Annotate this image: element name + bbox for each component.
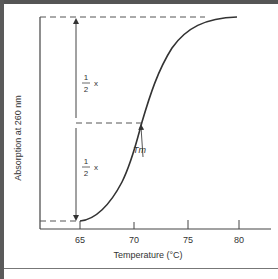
svg-text:x: x <box>94 163 98 172</box>
svg-text:1: 1 <box>84 73 89 82</box>
svg-text:2: 2 <box>84 85 89 94</box>
melting-curve-chart: 65 70 75 80 Temperature (°C) Absorption … <box>0 0 278 279</box>
svg-text:2: 2 <box>84 169 89 178</box>
lower-half-x-label: 1 2 x <box>82 157 98 178</box>
y-axis-title: Absorption at 260 nm <box>13 95 23 181</box>
melting-curve <box>80 17 237 221</box>
tm-label: Tm <box>133 145 146 155</box>
figure-frame: 65 70 75 80 Temperature (°C) Absorption … <box>0 0 278 279</box>
x-tick-label-75: 75 <box>183 235 193 245</box>
x-tick-label-80: 80 <box>234 235 244 245</box>
svg-text:x: x <box>94 79 98 88</box>
x-axis-title: Temperature (°C) <box>113 250 182 260</box>
upper-half-x-label: 1 2 x <box>82 73 98 94</box>
x-tick-label-65: 65 <box>75 235 85 245</box>
svg-text:1: 1 <box>84 157 89 166</box>
x-tick-label-70: 70 <box>129 235 139 245</box>
